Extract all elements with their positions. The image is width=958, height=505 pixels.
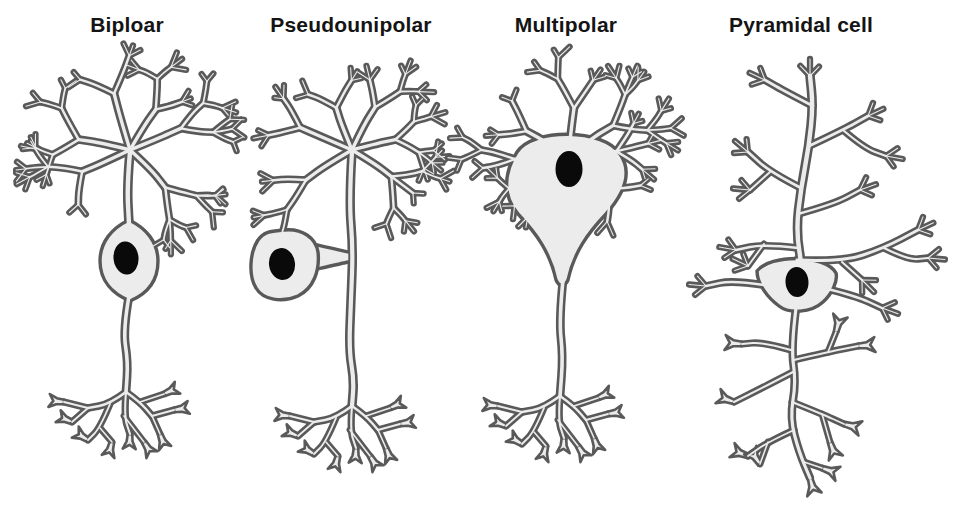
axon-terminal-foot: [384, 447, 397, 464]
process-core: [306, 150, 352, 180]
nucleus: [556, 151, 583, 187]
process-core: [170, 220, 171, 241]
process-core: [298, 422, 314, 436]
process-core: [558, 79, 574, 108]
pseudounipolar-neuron: [251, 61, 454, 473]
process-core: [375, 92, 400, 108]
process-core: [274, 179, 306, 180]
process-core: [197, 195, 216, 196]
process-core: [413, 193, 414, 203]
process-outline: [843, 130, 886, 156]
axon-terminal-foot: [821, 466, 840, 481]
axon-terminal-foot: [576, 445, 591, 462]
axon-terminal-foot: [833, 314, 847, 333]
axon-terminal-foot: [597, 386, 614, 400]
axon-terminal-foot: [843, 421, 862, 435]
axon-terminal-foot: [163, 382, 180, 396]
process-core: [792, 308, 810, 478]
axon-terminal-foot: [716, 389, 735, 404]
process-core: [450, 138, 463, 139]
process-core: [130, 150, 165, 188]
process-core: [642, 169, 655, 170]
process-core: [287, 180, 306, 210]
process-core: [82, 150, 130, 172]
axon-terminal-foot: [158, 433, 171, 450]
axon-terminal-foot: [56, 410, 73, 424]
process-core: [765, 80, 813, 106]
process-core: [284, 85, 285, 99]
process-core: [512, 101, 526, 131]
process-core: [413, 193, 424, 194]
process-core: [114, 94, 130, 150]
axon-terminal-foot: [282, 424, 299, 438]
process-core: [128, 152, 130, 224]
process-core: [509, 188, 534, 189]
axon-terminal-foot: [400, 415, 416, 428]
axon-terminal-foot: [389, 396, 406, 410]
axon-terminal-foot: [858, 337, 876, 352]
axon-terminal-foot: [174, 401, 190, 414]
axon-terminal-foot: [142, 441, 157, 458]
axon-terminal-foot: [807, 477, 821, 496]
axon-terminal-foot: [506, 431, 523, 446]
axon-terminal-foot: [123, 434, 136, 449]
process-core: [792, 402, 844, 424]
bipolar-neuron: [16, 44, 244, 459]
process-core: [506, 412, 522, 426]
process-core: [734, 372, 793, 402]
figure-canvas: Biploar Pseudounipolar Multipolar Pyrami…: [0, 0, 958, 505]
process-core: [750, 172, 770, 190]
axon-terminal-foot: [536, 445, 549, 462]
axon-terminal-foot: [349, 448, 362, 463]
neuron-diagram: [0, 0, 958, 505]
axon-terminal-foot: [368, 455, 383, 472]
process-core: [156, 79, 158, 110]
axon-terminal-foot: [490, 414, 507, 428]
process-core: [284, 99, 301, 128]
axon-terminal-foot: [102, 441, 115, 458]
axon-terminal-foot: [828, 441, 843, 460]
process-core: [395, 122, 414, 140]
axon-terminal-foot: [482, 398, 498, 411]
process-core: [336, 81, 351, 108]
process-core: [72, 408, 88, 422]
axon-terminal-foot: [274, 408, 290, 421]
process-core: [230, 119, 244, 120]
axon-terminal-foot: [557, 438, 570, 453]
pyramidal-neuron: [689, 59, 945, 496]
process-core: [418, 92, 434, 93]
axon-terminal-foot: [328, 455, 341, 472]
process-core: [352, 150, 391, 177]
axon-terminal-foot: [72, 427, 89, 442]
axon-terminal-foot: [592, 437, 605, 454]
process-core: [53, 140, 79, 155]
process-core: [574, 80, 593, 108]
axon-terminal-foot: [608, 405, 624, 418]
process-core: [560, 280, 563, 396]
axon-terminal-foot: [724, 335, 742, 350]
process-core: [558, 58, 559, 79]
multipolar-neuron: [448, 47, 684, 462]
axon-terminal-foot: [48, 394, 64, 407]
process-core: [212, 212, 223, 213]
process-core: [842, 262, 862, 280]
process-core: [62, 108, 79, 139]
axon-terminal-foot: [298, 441, 315, 456]
